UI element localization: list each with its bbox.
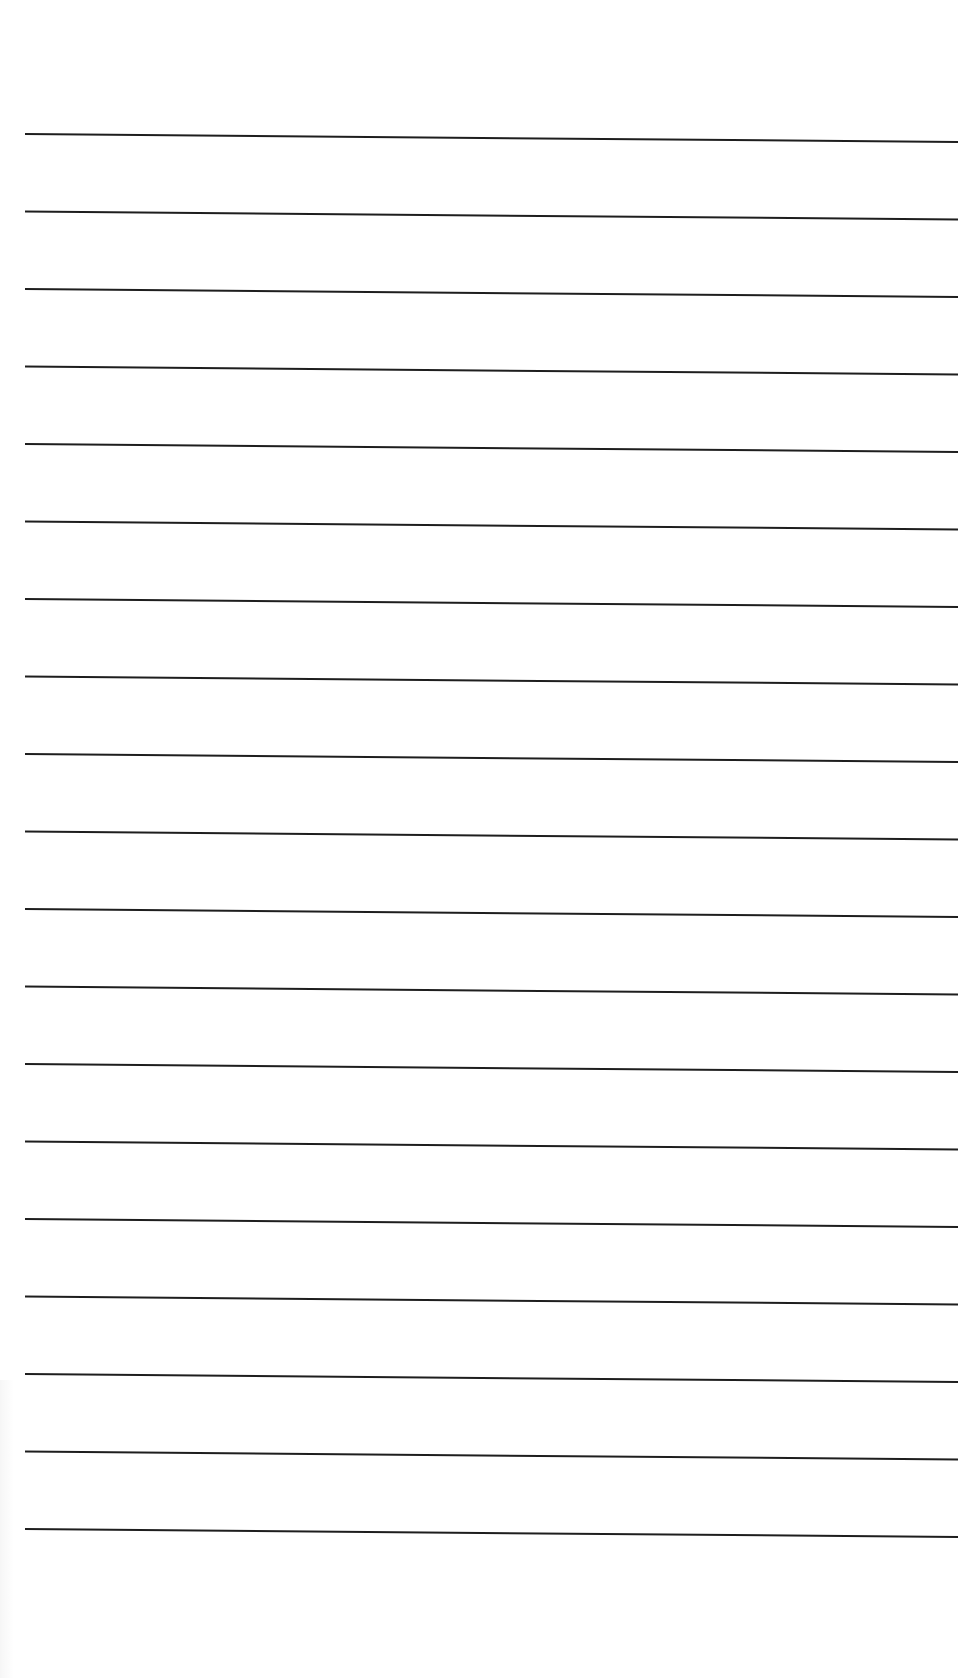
ruled-line [25, 1064, 958, 1072]
ruled-lines [0, 0, 960, 1678]
ruled-line [25, 1142, 958, 1150]
ruled-line [25, 832, 958, 840]
ruled-line [25, 212, 958, 220]
ruled-line [25, 909, 958, 917]
ruled-line [25, 522, 958, 530]
ruled-line [25, 1297, 958, 1305]
ruled-line [25, 599, 958, 607]
ruled-paper-page [0, 0, 960, 1678]
ruled-line [25, 134, 958, 142]
ruled-line [25, 367, 958, 375]
ruled-line [25, 444, 958, 452]
ruled-line [25, 754, 958, 762]
ruled-line [25, 677, 958, 685]
ruled-line [25, 1529, 958, 1537]
ruled-line [25, 1219, 958, 1227]
ruled-line [25, 1374, 958, 1382]
ruled-line [25, 1452, 958, 1460]
ruled-line [25, 289, 958, 297]
ruled-line [25, 987, 958, 995]
